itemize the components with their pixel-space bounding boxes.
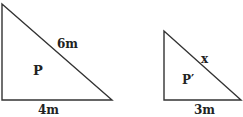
triangle-p-prime-name-label: P′	[182, 73, 194, 87]
triangle-p: 6m P 4m	[2, 4, 112, 117]
triangle-p-prime-hypotenuse-label: x	[201, 52, 209, 66]
triangle-p-shape	[2, 4, 112, 100]
triangle-p-prime-base-label: 3m	[194, 103, 215, 117]
triangle-p-hypotenuse-label: 6m	[57, 37, 78, 51]
triangle-p-prime: x P′ 3m	[164, 31, 241, 117]
similar-triangles-diagram: 6m P 4m x P′ 3m	[0, 0, 243, 117]
triangle-p-base-label: 4m	[38, 103, 59, 117]
triangle-p-name-label: P	[33, 63, 43, 78]
